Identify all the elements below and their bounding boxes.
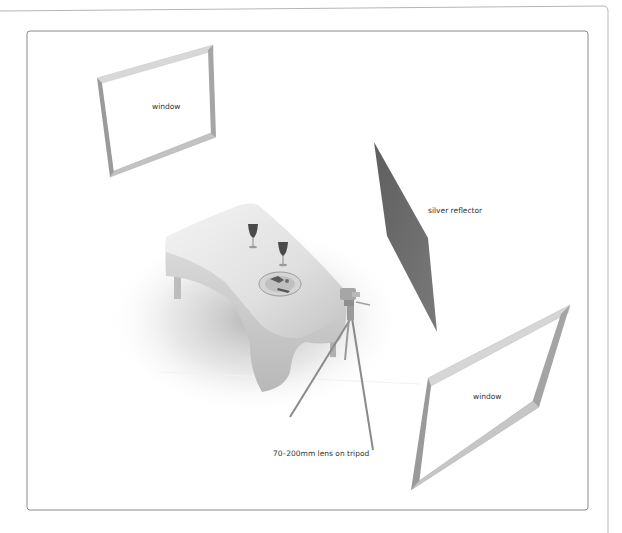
camera-label: 70–200mm lens on tripod [273,449,370,458]
window-label-2: window [473,392,501,401]
reflector-label: silver reflector [428,206,483,215]
table-leg [174,275,181,299]
lighting-diagram: window silver reflector [0,0,622,533]
window-label-1: window [152,102,180,111]
plate [259,272,301,296]
